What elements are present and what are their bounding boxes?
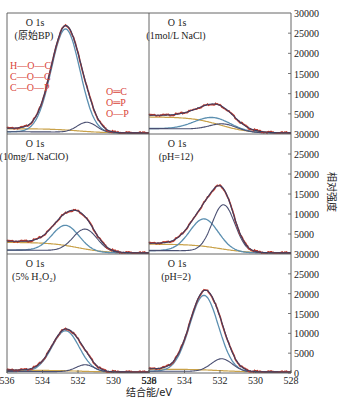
y-tick-label: 30000 bbox=[294, 129, 319, 140]
envelope-fit-curve bbox=[7, 210, 149, 253]
component-c-o-curve bbox=[7, 225, 149, 253]
bond-annotation-left: H—O—C bbox=[10, 60, 51, 71]
y-tick-label: 30000 bbox=[294, 249, 319, 260]
component-c-o-curve bbox=[149, 219, 291, 253]
y-tick-label: 20000 bbox=[294, 169, 319, 180]
panel-subtitle: (10mg/L NaClO) bbox=[0, 151, 68, 163]
x-tick-label: 534 bbox=[35, 375, 50, 386]
y-tick-label: 5000 bbox=[294, 109, 314, 120]
panel-title: O 1s bbox=[26, 138, 45, 149]
raw-data-curve bbox=[149, 185, 291, 253]
y-tick-label: 20000 bbox=[294, 48, 319, 59]
x-axis-label: 结合能/eV bbox=[126, 386, 173, 398]
y-axis-right: 3000025000200001500010000500030000250002… bbox=[288, 8, 319, 379]
panel-ph2: O 1s(pH=2) bbox=[149, 258, 291, 372]
y-tick-label: 25000 bbox=[294, 28, 319, 39]
raw-data-curve bbox=[7, 210, 149, 253]
panel-raw-bp: O 1s(原始BP)H—O—CC—O—CC—O—PO═CO═PO—P bbox=[7, 17, 149, 133]
y-tick-label: 15000 bbox=[294, 69, 319, 80]
panel-title: O 1s bbox=[168, 17, 187, 28]
y-axis-label: 相对强度 bbox=[326, 172, 338, 212]
y-tick-label: 15000 bbox=[294, 309, 319, 320]
y-tick-label: 25000 bbox=[294, 269, 319, 280]
component-c-o-curve bbox=[7, 331, 149, 372]
panel-naclo: O 1s(10mg/L NaClO) bbox=[0, 138, 149, 253]
x-tick-label: 532 bbox=[71, 375, 86, 386]
y-tick-label: 10000 bbox=[294, 328, 319, 339]
bond-annotation-left: C—O—P bbox=[10, 82, 50, 93]
panel-title: O 1s bbox=[168, 138, 187, 149]
panel-subtitle: (pH=2) bbox=[161, 271, 191, 283]
y-tick-label: 30000 bbox=[294, 8, 319, 19]
y-tick-label: 0 bbox=[294, 368, 299, 379]
y-tick-label: 20000 bbox=[294, 289, 319, 300]
panel-title: O 1s bbox=[26, 17, 45, 28]
bond-annotation-right: O—P bbox=[106, 108, 129, 119]
component-c-o-curve bbox=[149, 295, 291, 372]
panel-subtitle: (pH=12) bbox=[159, 151, 194, 163]
panel-ph12: O 1s(pH=12) bbox=[149, 138, 291, 253]
panel-nacl: O 1s(1mol/L NaCl) bbox=[146, 17, 291, 133]
bond-annotation-right: O═P bbox=[106, 97, 126, 108]
bond-annotation-right: O═C bbox=[106, 86, 127, 97]
y-tick-label: 5000 bbox=[294, 348, 314, 359]
raw-data-curve bbox=[7, 328, 149, 372]
panel-grid: O 1s(原始BP)H—O—CC—O—CC—O—PO═CO═PO—PO 1s(1… bbox=[0, 17, 291, 372]
panel-title: O 1s bbox=[26, 258, 45, 269]
x-tick-label: 530 bbox=[248, 375, 263, 386]
envelope-fit-curve bbox=[7, 329, 149, 372]
xps-o1s-figure: O 1s(原始BP)H—O—CC—O—CC—O—PO═CO═PO—PO 1s(1… bbox=[0, 0, 338, 403]
y-tick-label: 15000 bbox=[294, 189, 319, 200]
y-tick-label: 5000 bbox=[294, 229, 314, 240]
x-tick-label: 536 bbox=[142, 375, 157, 386]
panel-subtitle: (5% H₂O₂) bbox=[12, 271, 56, 283]
panel-h2o2: O 1s(5% H₂O₂) bbox=[7, 258, 149, 372]
y-tick-label: 10000 bbox=[294, 209, 319, 220]
y-tick-label: 25000 bbox=[294, 149, 319, 160]
panel-subtitle: (原始BP) bbox=[15, 29, 54, 42]
bond-annotation-left: C—O—C bbox=[10, 71, 51, 82]
x-tick-label: 530 bbox=[106, 375, 121, 386]
y-tick-label: 10000 bbox=[294, 89, 319, 100]
background-curve bbox=[7, 243, 149, 253]
panel-subtitle: (1mol/L NaCl) bbox=[146, 30, 205, 42]
x-tick-label: 532 bbox=[213, 375, 228, 386]
x-tick-label: 534 bbox=[177, 375, 192, 386]
panel-title: O 1s bbox=[168, 258, 187, 269]
component-o-p-curve bbox=[149, 205, 291, 253]
x-tick-label: 536 bbox=[0, 375, 15, 386]
